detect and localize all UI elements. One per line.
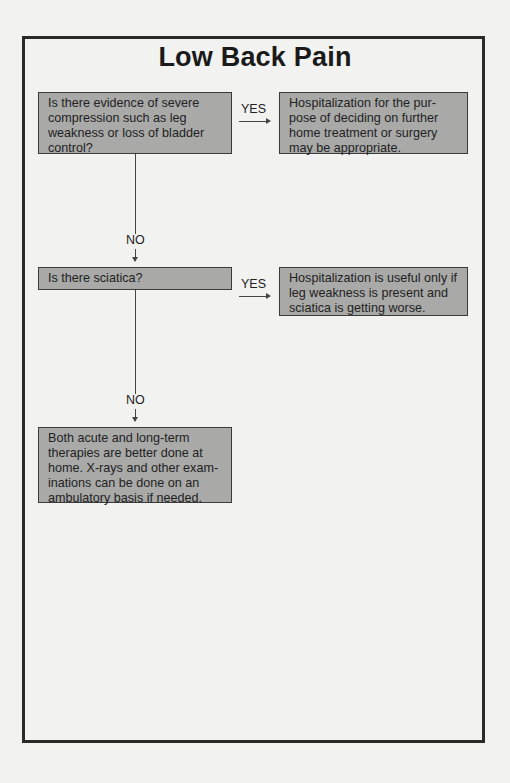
node-text-line: Is there evidence of severe bbox=[48, 96, 225, 111]
connector-line-1 bbox=[135, 154, 136, 234]
node-text-line: therapies are better done at bbox=[48, 446, 225, 461]
edge-label-no-2: NO bbox=[126, 393, 145, 407]
node-text-line: pose of deciding on further bbox=[289, 111, 461, 126]
node-text-line: Is there sciatica? bbox=[48, 271, 225, 286]
node-text-line: may be appropriate. bbox=[289, 141, 461, 156]
arrow-right-line-1 bbox=[239, 121, 267, 122]
node-home-therapy: Both acute and long-term therapies are b… bbox=[38, 427, 232, 503]
arrow-right-icon bbox=[266, 293, 271, 299]
diagram-title: Low Back Pain bbox=[0, 42, 510, 73]
node-text-line: Both acute and long-term bbox=[48, 431, 225, 446]
node-text-line: weakness or loss of bladder bbox=[48, 126, 225, 141]
node-text-line: leg weakness is present and bbox=[289, 286, 461, 301]
edge-label-yes-2: YES bbox=[241, 277, 266, 291]
node-severe-compression-question: Is there evidence of severe compression … bbox=[38, 92, 232, 154]
node-hospitalization-useful: Hospitalization is useful only if leg we… bbox=[279, 267, 468, 316]
node-sciatica-question: Is there sciatica? bbox=[38, 267, 232, 290]
node-text-line: sciatica is getting worse. bbox=[289, 301, 461, 316]
node-text-line: home treatment or surgery bbox=[289, 126, 461, 141]
arrow-down-icon bbox=[132, 417, 138, 422]
edge-label-yes-1: YES bbox=[241, 102, 266, 116]
node-hospitalization-decide: Hospitalization for the pur- pose of dec… bbox=[279, 92, 468, 154]
node-text-line: ambulatory basis if needed. bbox=[48, 491, 225, 506]
node-text-line: home. X-rays and other exam- bbox=[48, 461, 225, 476]
arrow-right-line-2 bbox=[239, 296, 267, 297]
connector-line-2 bbox=[135, 290, 136, 394]
arrow-down-icon bbox=[132, 257, 138, 262]
node-text-line: Hospitalization is useful only if bbox=[289, 271, 461, 286]
edge-label-no-1: NO bbox=[126, 233, 145, 247]
node-text-line: compression such as leg bbox=[48, 111, 225, 126]
node-text-line: control? bbox=[48, 141, 225, 156]
arrow-right-icon bbox=[266, 118, 271, 124]
node-text-line: inations can be done on an bbox=[48, 476, 225, 491]
node-text-line: Hospitalization for the pur- bbox=[289, 96, 461, 111]
